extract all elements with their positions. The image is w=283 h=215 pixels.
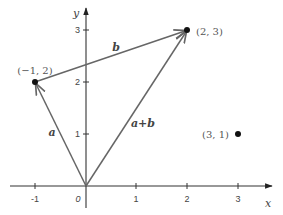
y-tick-label: 2 [75, 77, 80, 87]
vector-b [35, 31, 185, 82]
x-tick-label: 1 [133, 194, 138, 204]
point-label-2-3: (2, 3) [196, 26, 223, 37]
y-tick-label: 3 [75, 25, 80, 35]
x-tick-label: 2 [184, 194, 189, 204]
y-tick-label: 1 [75, 129, 80, 139]
y-axis-label: y [72, 7, 80, 20]
origin-label: 0 [75, 194, 80, 204]
vector-a-plus-b [86, 32, 186, 186]
vector-a-label: a [48, 126, 55, 139]
vector-diagram: -1 1 2 3 0 1 2 3 x y a b a+b (−1, 2) (2,… [0, 0, 283, 215]
point-neg1-2 [32, 79, 38, 85]
x-tick-label: -1 [31, 194, 39, 204]
point-label-neg1-2: (−1, 2) [17, 65, 52, 76]
point-label-3-1: (3, 1) [202, 129, 229, 140]
x-axis-label: x [265, 197, 272, 210]
point-3-1 [235, 131, 241, 137]
vector-b-label: b [112, 41, 120, 54]
point-2-3 [184, 27, 190, 33]
x-tick-label: 3 [235, 194, 240, 204]
vector-a-plus-b-label: a+b [131, 117, 155, 130]
